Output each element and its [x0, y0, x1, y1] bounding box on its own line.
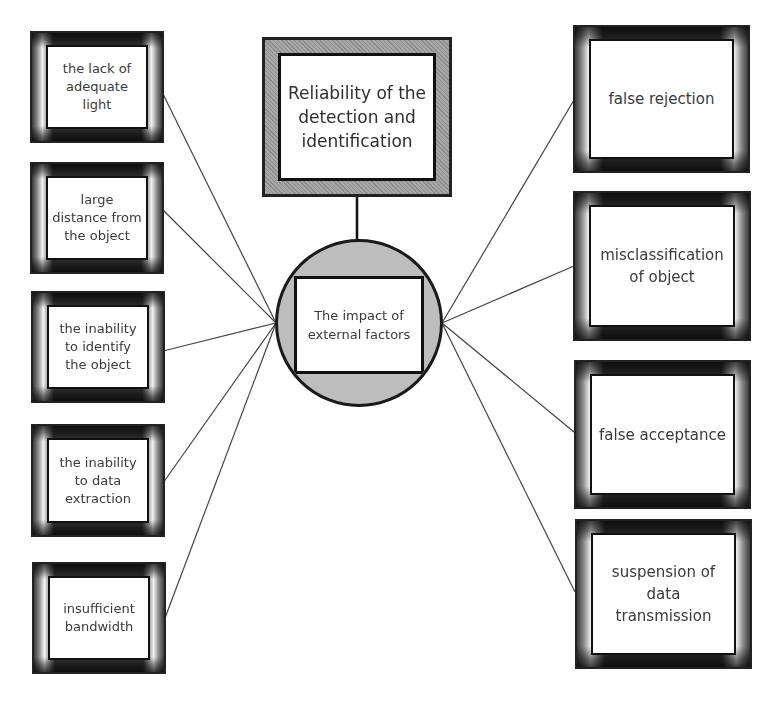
right-node-false-acceptance: false acceptance: [574, 360, 751, 509]
left-node-large-distance: large distance from the object: [30, 162, 164, 274]
right-node-label: misclassification of object: [591, 244, 733, 288]
hub-node-external-factors: The impact of external factors: [275, 239, 443, 407]
right-node-false-rejection: false rejection: [573, 25, 750, 173]
right-node-misclassification: misclassification of object: [573, 191, 751, 341]
top-node-label: Reliability of the detection and identif…: [281, 81, 433, 153]
top-node-inner: Reliability of the detection and identif…: [278, 53, 436, 181]
right-node-label: false acceptance: [595, 424, 730, 446]
right-node-label: suspension of data transmission: [593, 561, 734, 627]
link-right-2: [442, 266, 574, 323]
left-node-insufficient-bandwidth: insufficient bandwidth: [32, 562, 166, 674]
left-node-label: the lack of adequate light: [48, 60, 146, 114]
link-left-1: [163, 94, 276, 323]
left-node-lack-of-light: the lack of adequate light: [30, 31, 164, 143]
link-left-5: [165, 323, 276, 618]
left-node-inability-extraction: the inability to data extraction: [31, 424, 165, 537]
hub-node-label: The impact of external factors: [297, 306, 421, 344]
left-node-label: large distance from the object: [48, 191, 146, 245]
top-node-reliability: Reliability of the detection and identif…: [262, 37, 452, 197]
link-right-1: [442, 100, 574, 323]
right-node-label: false rejection: [605, 88, 719, 110]
link-left-2: [163, 210, 276, 323]
left-node-inability-identify: the inability to identify the object: [31, 291, 165, 403]
left-node-label: the inability to identify the object: [49, 320, 147, 374]
right-node-suspension-transmission: suspension of data transmission: [575, 519, 752, 669]
hub-node-inner: The impact of external factors: [294, 276, 424, 374]
left-node-label: the inability to data extraction: [49, 454, 147, 508]
link-right-3: [442, 323, 574, 432]
link-right-4: [442, 323, 575, 592]
left-node-label: insufficient bandwidth: [50, 600, 148, 636]
